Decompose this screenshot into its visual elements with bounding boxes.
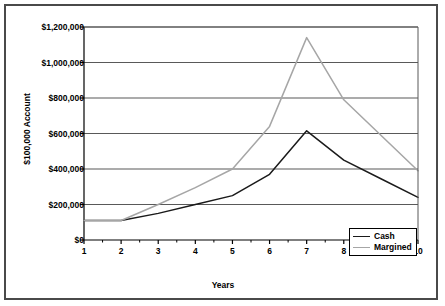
- legend-line-swatch: [353, 247, 370, 248]
- x-tick-label: 7: [292, 246, 322, 256]
- legend-item[interactable]: Margined: [353, 242, 412, 253]
- x-axis-title: Years: [6, 280, 440, 290]
- x-tick-label: 2: [106, 246, 136, 256]
- y-tick-label: $1,200,000: [18, 22, 84, 32]
- x-tick-label: 5: [217, 246, 247, 256]
- x-tick-label: 3: [143, 246, 173, 256]
- x-tick-label: 1: [69, 246, 99, 256]
- y-tick-label: $0: [18, 235, 84, 245]
- legend-item[interactable]: Cash: [353, 231, 412, 242]
- x-tick-label: 4: [180, 246, 210, 256]
- legend-item-label: Cash: [374, 231, 395, 242]
- chart-figure-frame: $0$200,000$400,000$600,000$800,000$1,000…: [4, 4, 438, 300]
- x-tick-label: 6: [255, 246, 285, 256]
- chart-legend: CashMargined: [349, 228, 417, 256]
- legend-line-swatch: [353, 236, 370, 237]
- y-axis-title: $100,000 Account: [22, 64, 32, 194]
- legend-item-label: Margined: [374, 242, 412, 253]
- y-tick-label: $200,000: [18, 200, 84, 210]
